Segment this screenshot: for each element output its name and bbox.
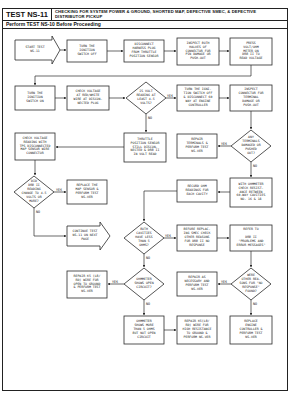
node-repair-as-necessary: REPAIR AS NECESSARY AND PERFORM TEST NS-… bbox=[177, 272, 217, 296]
node-repair-terminals: REPAIR TERMINALS & PERFORM TEST NS-VER bbox=[177, 134, 217, 158]
node-inspect-terminal: INSPECT CONNECTOR FOR TERMINAL DAMAGE OR… bbox=[230, 85, 272, 111]
node-disconnect-tps: DISCONNECT HARNESS PLUG FROM THROTTLE PO… bbox=[124, 40, 164, 62]
label-no-4-5v: NO bbox=[148, 116, 152, 120]
label-no-terminals: NO bbox=[253, 164, 257, 168]
node-repair-open: REPAIR K5 (LB/ RD) WIRE FOR OPEN TO GROU… bbox=[67, 271, 107, 298]
decision-other-reasons: WERE OTHER REA- SONS FOR "NO RESPONSE" F… bbox=[236, 273, 266, 295]
decision-cavities: BOTH CAVITIES HAVE LESS THAN 5 OHMS? bbox=[129, 227, 159, 249]
label-yes-terminals: YES bbox=[221, 142, 227, 146]
label-yes-4-5v: YES bbox=[167, 94, 173, 98]
decision-ohmmeter: OHMMETER SHOWS OPEN CIRCUIT? bbox=[129, 274, 159, 294]
node-before-replacing: BEFORE REPLAC- ING SMEC CHECK OTHER REAS… bbox=[177, 225, 217, 251]
node-check-voltage-plug: CHECK VOLTAGE AT RED/WHITE WIRE AT DISCO… bbox=[67, 86, 109, 110]
node-check-map-voltage: CHECK VOLTAGE READING WITH TPS DISCONNEC… bbox=[15, 133, 55, 160]
decision-4-5v: IS VOLT READING AT LEAST 4.5 VOLTS? bbox=[131, 87, 161, 109]
label-no-ohmmeter: NO bbox=[146, 302, 150, 306]
node-replace-map: REPLACE THE MAP SENSOR & PERFORM TEST NS… bbox=[67, 180, 107, 204]
node-repair-resistance: REPAIR K5(LB/ RD) WIRE FOR HIGH RESISTAN… bbox=[177, 316, 217, 344]
node-tps-still-connected: THROTTLE POSITION SENSOR STILL DISCON- N… bbox=[124, 133, 166, 162]
node-ignition-off-disconnect: TURN THE IGNI- TION SWITCH OFF & DISCONN… bbox=[177, 85, 219, 111]
label-no-cavities: NO bbox=[146, 256, 150, 260]
node-continue-test: CONTINUE TEST NS-11 ON NEXT PAGE bbox=[67, 226, 103, 246]
decision-terminals: ANY TERMINALS DAMAGED OR PUSHED OUT? bbox=[236, 135, 266, 157]
label-yes-cavities: YES bbox=[165, 234, 171, 238]
node-ignition-on: TURN THE IGNITION SWITCH ON bbox=[15, 86, 55, 110]
label-no-map-change: NO bbox=[36, 210, 40, 214]
node-record-ohm: RECORD OHM READINGS FOR EACH CAVITY bbox=[177, 180, 217, 202]
start-node: START TEST NS-11 bbox=[16, 40, 54, 60]
node-refer-to: REFER TO DRB II "PROBLEMS AND ERROR MESS… bbox=[230, 225, 272, 251]
label-yes-map-change: YES bbox=[56, 188, 62, 192]
label-no-other-reasons: NO bbox=[253, 302, 257, 306]
node-ignition-off: TURN THE IGNITION SWITCH OFF bbox=[67, 40, 107, 62]
label-yes-other-reasons: YES bbox=[221, 280, 227, 284]
node-replace-controller: REPLACE ENGINE CONTROLLER & PERFORM TEST… bbox=[230, 316, 272, 344]
node-ohmmeter-more: OHMMETER SHOWS MORE THAN 5 OHMS BUT NOT … bbox=[124, 316, 164, 344]
label-yes-ohmmeter: YES bbox=[112, 280, 118, 284]
node-press-voltohm: PRESS VOLT/OHM METER ON DRB II TO READ V… bbox=[230, 38, 272, 65]
node-inspect-halves: INSPECT BOTH HALVES OF CONNECTOR FOR PIN… bbox=[177, 38, 219, 65]
decision-map-change: DID DRB II READING CHANGE TO 4.5 VOLTS O… bbox=[19, 180, 49, 204]
node-ohmmeter-check: WITH OHMMETER CHECK RESIST- ANCE BETWEEN… bbox=[230, 178, 272, 207]
